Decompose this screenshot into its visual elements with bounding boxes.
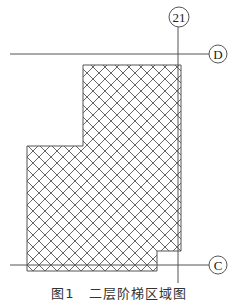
axis-label-21: 21: [173, 10, 186, 25]
hatched-area: [27, 65, 181, 271]
stair-region-polygon: [27, 65, 181, 271]
grid-line-d: D: [10, 45, 227, 63]
axis-label-c: C: [214, 258, 223, 273]
axis-label-d: D: [213, 47, 222, 62]
figure-caption: 图1 二层阶梯区域图: [0, 283, 238, 302]
